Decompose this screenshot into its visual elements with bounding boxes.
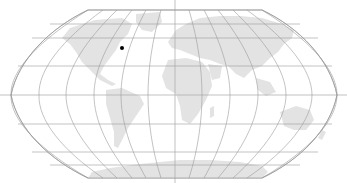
- world-map: [0, 0, 347, 183]
- madagascar: [210, 106, 214, 118]
- location-marker[interactable]: [120, 46, 124, 50]
- world-map-svg: [0, 0, 347, 183]
